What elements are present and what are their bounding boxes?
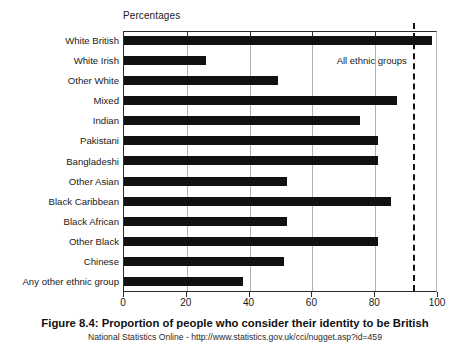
figure-chart-8-4: Percentages All ethnic groups White Brit… bbox=[0, 0, 470, 352]
bar bbox=[124, 257, 284, 266]
figure-caption: Figure 8.4: Proportion of people who con… bbox=[0, 316, 470, 344]
category-label: White Irish bbox=[1, 56, 119, 66]
category-label: Black Caribbean bbox=[1, 197, 119, 207]
x-top-tick-20 bbox=[187, 32, 188, 37]
bar-row bbox=[124, 193, 436, 213]
bar-row bbox=[124, 213, 436, 233]
category-label: Indian bbox=[1, 116, 119, 126]
axis-title-percentages: Percentages bbox=[123, 10, 180, 21]
plot-box bbox=[123, 31, 437, 292]
bar bbox=[124, 177, 287, 186]
caption-separator: : bbox=[95, 317, 102, 329]
bar bbox=[124, 96, 397, 105]
caption-title: Figure 8.4: Proportion of people who con… bbox=[0, 316, 470, 331]
x-tick-label: 40 bbox=[243, 297, 254, 308]
category-label: Mixed bbox=[1, 96, 119, 106]
x-tick-label: 0 bbox=[120, 297, 126, 308]
caption-title-text: Proportion of people who consider their … bbox=[102, 317, 429, 329]
bar-row bbox=[124, 72, 436, 92]
bar-row bbox=[124, 152, 436, 172]
category-label: Other Black bbox=[1, 237, 119, 247]
bar bbox=[124, 156, 378, 165]
bar-row bbox=[124, 253, 436, 273]
bar-row bbox=[124, 173, 436, 193]
x-axis: 020406080100 bbox=[123, 292, 437, 312]
bar bbox=[124, 76, 278, 85]
reference-line-all-ethnic-groups bbox=[413, 23, 415, 291]
bar bbox=[124, 277, 243, 286]
category-label: Pakistani bbox=[1, 136, 119, 146]
category-label: Any other ethnic group bbox=[1, 277, 119, 287]
reference-line-label: All ethnic groups bbox=[123, 55, 407, 66]
bar-row bbox=[124, 112, 436, 132]
x-top-tick-40 bbox=[250, 32, 251, 37]
category-label: Bangladeshi bbox=[1, 157, 119, 167]
bar-row bbox=[124, 32, 436, 52]
x-tick-label: 80 bbox=[369, 297, 380, 308]
x-tick-label: 60 bbox=[306, 297, 317, 308]
bar-row bbox=[124, 273, 436, 293]
bar-row bbox=[124, 92, 436, 112]
bar bbox=[124, 217, 287, 226]
category-axis-labels: White BritishWhite IrishOther WhiteMixed… bbox=[0, 31, 119, 292]
category-label: Other Asian bbox=[1, 177, 119, 187]
x-top-tick-80 bbox=[375, 32, 376, 37]
x-tick-label: 100 bbox=[429, 297, 446, 308]
category-label: Other White bbox=[1, 76, 119, 86]
bar-row bbox=[124, 233, 436, 253]
x-top-tick-60 bbox=[312, 32, 313, 37]
bar bbox=[124, 237, 378, 246]
bar bbox=[124, 136, 378, 145]
bar bbox=[124, 197, 391, 206]
caption-figure-number: Figure 8.4 bbox=[41, 317, 94, 329]
bar bbox=[124, 36, 432, 45]
category-label: White British bbox=[1, 36, 119, 46]
x-tick-label: 20 bbox=[180, 297, 191, 308]
caption-source: National Statistics Online - http://www.… bbox=[0, 331, 470, 344]
bar bbox=[124, 116, 360, 125]
category-label: Chinese bbox=[1, 257, 119, 267]
category-label: Black African bbox=[1, 217, 119, 227]
bar-row bbox=[124, 132, 436, 152]
chart-plot-area: Percentages All ethnic groups White Brit… bbox=[0, 0, 470, 312]
